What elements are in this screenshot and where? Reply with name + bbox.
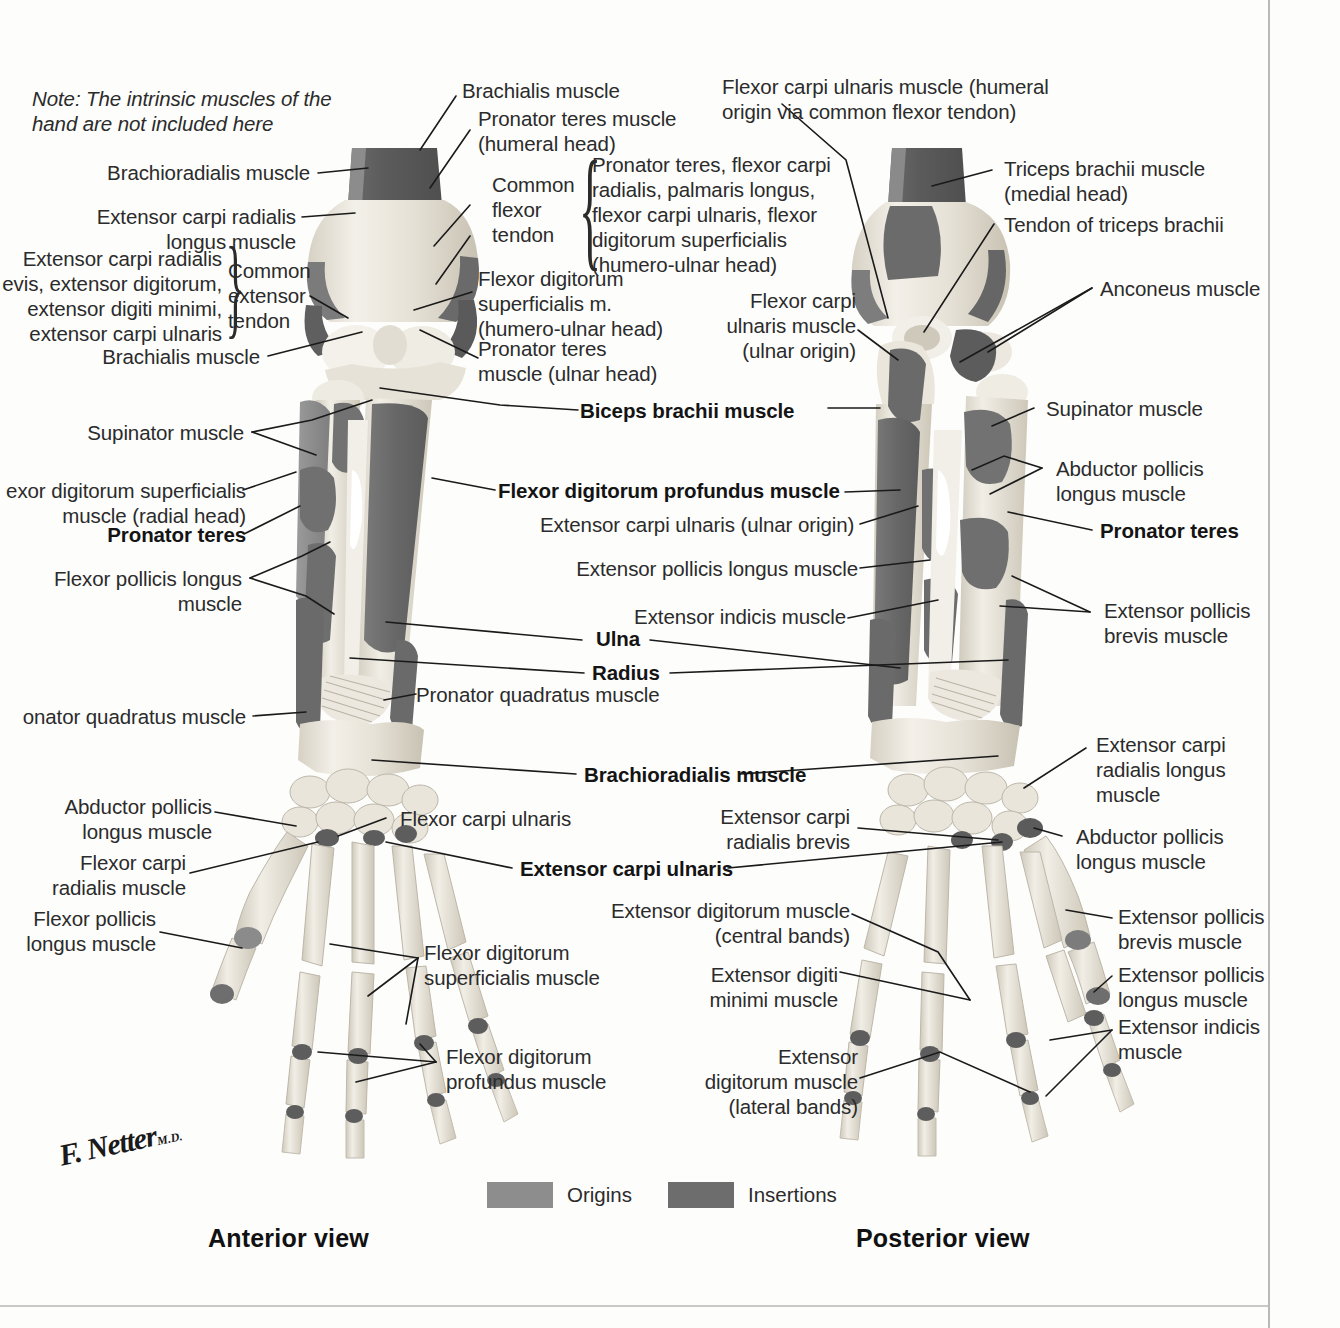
label-fcu-humeral-origin: Flexor carpi ulnaris muscle (humeral ori… (722, 74, 1049, 124)
label-pronator-quadratus-left: onator quadratus muscle (0, 704, 246, 729)
label-fdp-hand: Flexor digitorum profundus muscle (446, 1044, 606, 1094)
label-apl-right: Abductor pollicis longus muscle (1056, 456, 1204, 506)
legend-swatch-origins (487, 1182, 553, 1208)
label-apl-left: Abductor pollicis longus muscle (0, 794, 212, 844)
label-ei-hand-right: Extensor indicis muscle (1118, 1014, 1260, 1064)
label-pronator-teres-ulnar: Pronator teres muscle (ulnar head) (478, 336, 657, 386)
view-title-posterior: Posterior view (856, 1224, 1030, 1253)
label-pronator-teres-humeral: Pronator teres muscle (humeral head) (478, 106, 676, 156)
legend-swatch-insertions (668, 1182, 734, 1208)
label-common-flexor-tendon: Common flexor tendon (492, 172, 575, 247)
label-fdp: Flexor digitorum profundus muscle (498, 478, 840, 503)
label-supinator-right: Supinator muscle (1046, 396, 1203, 421)
label-ecrl-right: Extensor carpi radialis longus muscle (1096, 732, 1226, 807)
label-triceps-medial: Triceps brachii muscle (medial head) (1004, 156, 1205, 206)
label-epl-hand-right: Extensor pollicis longus muscle (1118, 962, 1264, 1012)
label-brachioradialis-left: Brachioradialis muscle (0, 160, 310, 185)
label-ecu-mid: Extensor carpi ulnaris (520, 856, 733, 881)
label-ed-central: Extensor digitorum muscle (central bands… (600, 898, 850, 948)
plate-note: Note: The intrinsic muscles of the hand … (32, 86, 332, 136)
label-fcr-left: Flexor carpi radialis muscle (0, 850, 186, 900)
label-edm: Extensor digiti minimi muscle (660, 962, 838, 1012)
label-apl-hand-right: Abductor pollicis longus muscle (1076, 824, 1224, 874)
legend-label-insertions: Insertions (748, 1183, 837, 1207)
label-brachioradialis-mid: Brachioradialis muscle (584, 762, 806, 787)
label-epb-right: Extensor pollicis brevis muscle (1104, 598, 1250, 648)
label-fcu-mid: Flexor carpi ulnaris (400, 806, 571, 831)
label-fds-humero-ulnar: Flexor digitorum superficialis m. (humer… (478, 266, 663, 341)
label-brachialis-left: Brachialis muscle (0, 344, 260, 369)
signature-suffix: M.D. (156, 1129, 184, 1148)
label-fds-hand: Flexor digitorum superficialis muscle (424, 940, 600, 990)
label-common-extensor-group: Extensor carpi radialis evis, extensor d… (0, 246, 222, 346)
legend: Origins Insertions (487, 1182, 873, 1208)
label-epb-hand-right: Extensor pollicis brevis muscle (1118, 904, 1264, 954)
view-title-anterior: Anterior view (208, 1224, 369, 1253)
posterior-forearm-illustration (840, 148, 1134, 1156)
label-fds-radial-head: exor digitorum superficialis muscle (rad… (0, 478, 246, 528)
label-fpl-hand-left: Flexor pollicis longus muscle (0, 906, 156, 956)
label-brachialis-top: Brachialis muscle (462, 78, 620, 103)
anatomy-plate: Note: The intrinsic muscles of the hand … (0, 0, 1340, 1328)
label-common-flexor-group: Pronator teres, flexor carpi radialis, p… (592, 152, 831, 277)
label-fcu-ulnar-origin: Flexor carpi ulnaris muscle (ulnar origi… (688, 288, 856, 363)
label-ulna: Ulna (596, 626, 640, 651)
label-pronator-teres-left: Pronator teres (0, 522, 246, 547)
label-supinator-left: Supinator muscle (0, 420, 244, 445)
label-pronator-quadratus-mid: Pronator quadratus muscle (416, 682, 660, 707)
label-anconeus: Anconeus muscle (1100, 276, 1260, 301)
label-ecu-ulnar-origin: Extensor carpi ulnaris (ulnar origin) (540, 512, 846, 537)
label-biceps-brachii: Biceps brachii muscle (580, 398, 794, 423)
label-fpl-left: Flexor pollicis longus muscle (0, 566, 242, 616)
label-pronator-teres-right: Pronator teres (1100, 518, 1239, 543)
label-ecrb-right: Extensor carpi radialis brevis (660, 804, 850, 854)
label-common-extensor-tendon: Common extensor tendon (228, 258, 311, 333)
legend-label-origins: Origins (567, 1183, 632, 1207)
label-ed-lateral: Extensor digitorum muscle (lateral bands… (640, 1044, 858, 1119)
label-epl: Extensor pollicis longus muscle (540, 556, 858, 581)
label-triceps-tendon: Tendon of triceps brachii (1004, 212, 1224, 237)
